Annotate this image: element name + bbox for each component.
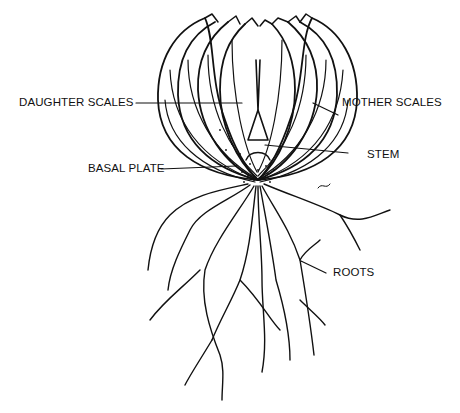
label-stem: STEM: [367, 148, 399, 160]
label-roots: ROOTS: [333, 266, 374, 278]
label-basal-plate: BASAL PLATE: [88, 162, 165, 174]
daughter-bud: [248, 110, 268, 140]
bulb-diagram: DAUGHTER SCALES MOTHER SCALES BASAL PLAT…: [0, 0, 460, 413]
roots: [148, 184, 390, 400]
label-mother-scales: MOTHER SCALES: [342, 96, 442, 108]
scale-tips: [205, 14, 312, 26]
label-daughter-scales: DAUGHTER SCALES: [19, 96, 134, 108]
bulb-illustration: [0, 0, 460, 413]
